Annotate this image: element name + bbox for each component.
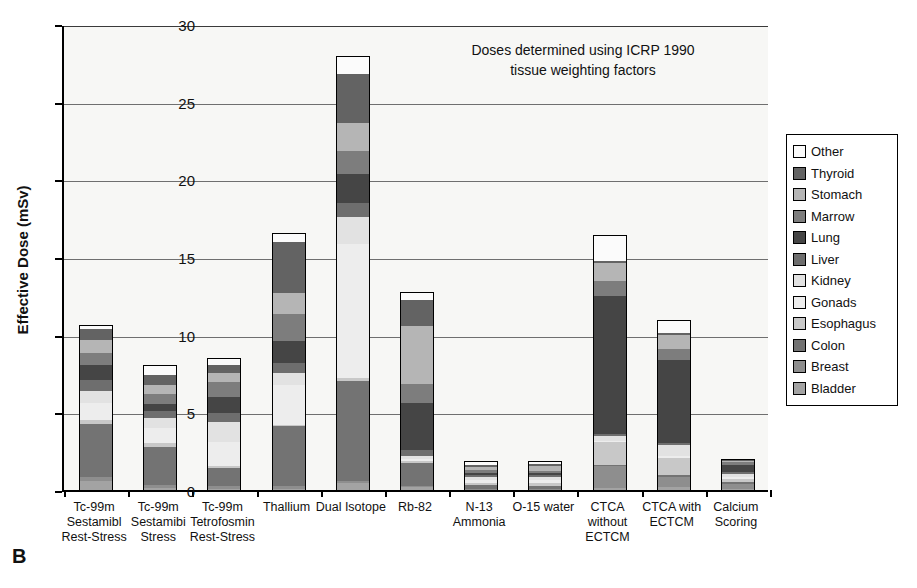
bar-segment[interactable] (143, 393, 177, 403)
x-axis-label: Calcium Scoring (698, 500, 774, 530)
bar-segment[interactable] (657, 444, 691, 456)
bar-segment[interactable] (143, 446, 177, 486)
bar-segment[interactable] (336, 173, 370, 203)
bar-stack[interactable] (464, 461, 498, 490)
legend-item[interactable]: Other (793, 141, 892, 163)
bar-segment[interactable] (79, 379, 113, 391)
bar-segment[interactable] (464, 461, 498, 465)
bar-segment[interactable] (143, 365, 177, 375)
bar-segment[interactable] (593, 441, 627, 464)
legend-swatch-icon (793, 296, 806, 309)
bar-segment[interactable] (272, 425, 306, 486)
bar-segment[interactable] (336, 380, 370, 482)
legend-item[interactable]: Gonads (793, 292, 892, 314)
bar-segment[interactable] (272, 292, 306, 315)
bar-segment[interactable] (593, 465, 627, 488)
bar-segment[interactable] (336, 56, 370, 74)
bar-segment[interactable] (593, 295, 627, 435)
x-tick-mark (706, 490, 708, 497)
legend-item-label: Liver (811, 252, 839, 267)
bar-segment[interactable] (207, 467, 241, 486)
bar-segment[interactable] (207, 364, 241, 373)
bar-segment[interactable] (593, 235, 627, 261)
bar-segment[interactable] (143, 384, 177, 394)
x-tick-mark (321, 490, 323, 497)
bar-segment[interactable] (400, 402, 434, 450)
bar-segment[interactable] (207, 358, 241, 365)
legend-item[interactable]: Breast (793, 356, 892, 378)
bar-segment[interactable] (143, 427, 177, 443)
bar-segment[interactable] (400, 299, 434, 326)
bar-stack[interactable] (143, 365, 177, 490)
bar-segment[interactable] (400, 383, 434, 402)
bar-segment[interactable] (79, 423, 113, 477)
bar-segment[interactable] (79, 390, 113, 403)
bar-stack[interactable] (721, 459, 755, 490)
bar-stack[interactable] (528, 461, 562, 491)
bar-segment[interactable] (721, 464, 755, 472)
bar-segment[interactable] (593, 262, 627, 281)
bar-segment[interactable] (336, 243, 370, 378)
bar-stack[interactable] (593, 235, 627, 490)
bar-segment[interactable] (400, 449, 434, 456)
bar-segment[interactable] (79, 328, 113, 340)
bar-segment[interactable] (207, 421, 241, 442)
bar-segment[interactable] (79, 352, 113, 364)
bar-segment[interactable] (336, 122, 370, 151)
legend-item[interactable]: Liver (793, 249, 892, 271)
bar-segment[interactable] (657, 457, 691, 476)
bar-segment[interactable] (400, 325, 434, 384)
y-tick-mark (55, 180, 62, 182)
bar-segment[interactable] (143, 374, 177, 386)
bar-segment[interactable] (272, 362, 306, 373)
y-tick-label: 5 (147, 405, 195, 422)
y-tick-mark (55, 25, 62, 27)
bar-segment[interactable] (657, 334, 691, 349)
bar-segment[interactable] (657, 348, 691, 360)
bar-segment[interactable] (336, 202, 370, 218)
bar-segment[interactable] (657, 476, 691, 488)
legend-item[interactable]: Lung (793, 227, 892, 249)
bar-segment[interactable] (207, 396, 241, 412)
bar-segment[interactable] (657, 320, 691, 332)
legend-item[interactable]: Stomach (793, 184, 892, 206)
bar-stack[interactable] (207, 358, 241, 490)
bar-segment[interactable] (79, 325, 113, 329)
bar-segment[interactable] (721, 459, 755, 461)
bar-stack[interactable] (657, 320, 691, 490)
bar-segment[interactable] (400, 292, 434, 301)
bar-segment[interactable] (272, 313, 306, 341)
legend-item[interactable]: Kidney (793, 270, 892, 292)
legend-item[interactable]: Esophagus (793, 313, 892, 335)
bar-segment[interactable] (79, 402, 113, 421)
legend-item[interactable]: Marrow (793, 206, 892, 228)
bar-segment[interactable] (336, 150, 370, 175)
bar-segment[interactable] (336, 73, 370, 123)
bar-stack[interactable] (79, 325, 113, 490)
bar-segment[interactable] (272, 241, 306, 293)
bar-segment[interactable] (528, 461, 562, 465)
bar-segment[interactable] (400, 462, 434, 486)
bar-segment[interactable] (79, 480, 113, 491)
bar-stack[interactable] (336, 56, 370, 490)
bar-segment[interactable] (336, 216, 370, 243)
bar-segment[interactable] (272, 233, 306, 242)
legend-item[interactable]: Colon (793, 335, 892, 357)
bar-segment[interactable] (272, 384, 306, 425)
bar-segment[interactable] (207, 372, 241, 382)
bar-segment[interactable] (657, 359, 691, 443)
bar-segment[interactable] (272, 340, 306, 363)
bar-segment[interactable] (79, 339, 113, 353)
bar-segment[interactable] (79, 364, 113, 380)
bar-segment[interactable] (593, 280, 627, 296)
y-tick-label: 0 (147, 483, 195, 500)
legend-item[interactable]: Thyroid (793, 163, 892, 185)
bar-stack[interactable] (272, 233, 306, 490)
bar-segment[interactable] (272, 372, 306, 385)
bar-stack[interactable] (400, 292, 434, 490)
bar-segment[interactable] (336, 482, 370, 491)
legend-item[interactable]: Bladder (793, 378, 892, 400)
bar-segment[interactable] (207, 381, 241, 397)
bar-segment[interactable] (207, 441, 241, 467)
bar-segment[interactable] (207, 412, 241, 422)
